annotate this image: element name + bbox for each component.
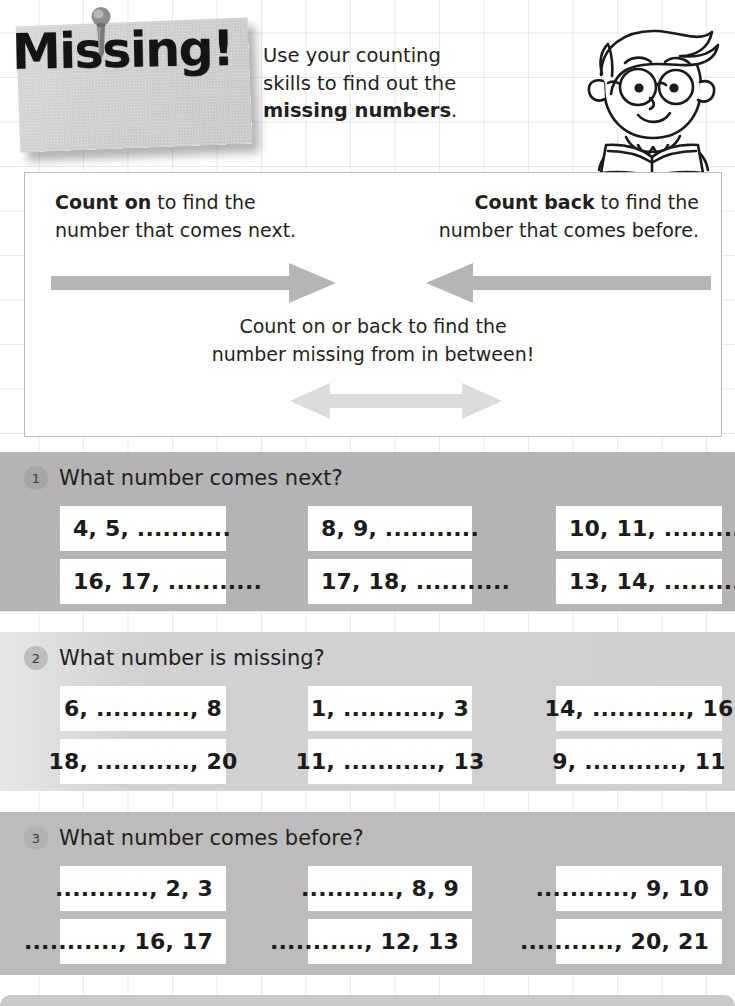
answer-box[interactable]: ..........., 9, 10 — [556, 866, 722, 911]
answer-row: 4, 5, ........... 8, 9, ........... 10, … — [0, 506, 735, 553]
boy-reading-book-icon — [568, 18, 733, 176]
answer-box[interactable]: 13, 14, ........... — [556, 559, 722, 604]
arrow-double-headed-icon — [290, 381, 502, 421]
answer-row: ..........., 16, 17 ..........., 12, 13 … — [0, 919, 735, 966]
section-3-answer-grid: ..........., 2, 3 ..........., 8, 9 ....… — [0, 866, 735, 972]
instruction-count-between: Count on or back to find the number miss… — [25, 313, 721, 368]
question-section-2: 2 What number is missing? 6, ...........… — [0, 632, 735, 791]
answer-row: 16, 17, ........... 17, 18, ........... … — [0, 559, 735, 606]
section-2-heading: 2 What number is missing? — [24, 646, 325, 670]
question-section-1: 1 What number comes next? 4, 5, ........… — [0, 452, 735, 611]
count-back-line-2: number that comes before. — [439, 219, 699, 241]
intro-line-1: Use your counting — [263, 44, 441, 67]
arrow-left-icon — [426, 261, 711, 305]
answer-box[interactable]: 14, ..........., 16 — [556, 686, 722, 731]
section-3-title: What number comes before? — [59, 826, 364, 850]
question-section-4-partial — [0, 995, 735, 1006]
question-section-3: 3 What number comes before? ...........,… — [0, 812, 735, 975]
instruction-panel: Count on to find the number that comes n… — [24, 172, 722, 437]
pushpin-icon — [88, 6, 114, 60]
answer-box[interactable]: ..........., 8, 9 — [308, 866, 472, 911]
section-1-answer-grid: 4, 5, ........... 8, 9, ........... 10, … — [0, 506, 735, 612]
arrow-right-icon — [51, 261, 336, 305]
answer-box[interactable]: ..........., 12, 13 — [308, 919, 472, 964]
section-2-number-badge: 2 — [24, 646, 48, 670]
instruction-count-back: Count back to find the number that comes… — [384, 189, 699, 244]
count-on-rest: to find the — [151, 191, 255, 213]
answer-box[interactable]: 6, ..........., 8 — [60, 686, 226, 731]
between-line-2: number missing from in between! — [212, 343, 535, 365]
answer-box[interactable]: 11, ..........., 13 — [308, 739, 472, 784]
count-back-rest: to find the — [595, 191, 699, 213]
header-intro-text: Use your counting skills to find out the… — [263, 42, 563, 125]
section-3-number-badge: 3 — [24, 826, 48, 850]
answer-box[interactable]: ..........., 2, 3 — [60, 866, 226, 911]
section-1-heading: 1 What number comes next? — [24, 466, 343, 490]
section-3-heading: 3 What number comes before? — [24, 826, 364, 850]
page-title: Missing! — [12, 24, 227, 77]
answer-box[interactable]: 8, 9, ........... — [308, 506, 472, 551]
answer-box[interactable]: 1, ..........., 3 — [308, 686, 472, 731]
answer-box[interactable]: 4, 5, ........... — [60, 506, 226, 551]
section-1-number-badge: 1 — [24, 466, 48, 490]
count-back-label: Count back — [474, 191, 594, 213]
answer-row: 6, ..........., 8 1, ..........., 3 14, … — [0, 686, 735, 733]
answer-row: ..........., 2, 3 ..........., 8, 9 ....… — [0, 866, 735, 913]
answer-box[interactable]: 10, 11, ........... — [556, 506, 722, 551]
section-1-title: What number comes next? — [59, 466, 343, 490]
answer-box[interactable]: 9, ..........., 11 — [556, 739, 722, 784]
answer-box[interactable]: 17, 18, ........... — [308, 559, 472, 604]
intro-bold-phrase: missing numbers — [263, 99, 451, 122]
between-line-1: Count on or back to find the — [239, 315, 506, 337]
answer-box[interactable]: ..........., 20, 21 — [556, 919, 722, 964]
section-2-title: What number is missing? — [59, 646, 325, 670]
count-on-line-2: number that comes next. — [55, 219, 296, 241]
answer-box[interactable]: 18, ..........., 20 — [60, 739, 226, 784]
answer-row: 18, ..........., 20 11, ..........., 13 … — [0, 739, 735, 786]
section-2-answer-grid: 6, ..........., 8 1, ..........., 3 14, … — [0, 686, 735, 792]
page-header: Missing! Use your counting skills to fin… — [0, 0, 735, 170]
count-on-label: Count on — [55, 191, 151, 213]
answer-box[interactable]: ..........., 16, 17 — [60, 919, 226, 964]
intro-period: . — [451, 99, 457, 122]
intro-line-2: skills to find out the — [263, 72, 456, 95]
answer-box[interactable]: 16, 17, ........... — [60, 559, 226, 604]
instruction-count-on: Count on to find the number that comes n… — [55, 189, 370, 244]
